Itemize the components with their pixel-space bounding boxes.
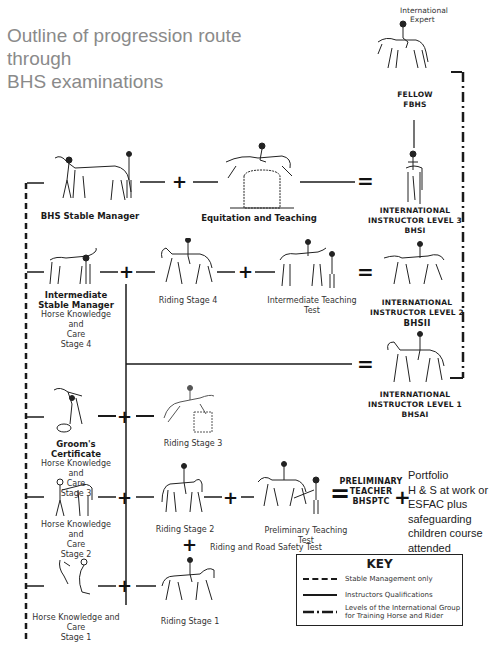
equals-operator: = [357, 263, 374, 281]
plus-operator: + [117, 408, 132, 426]
plus-operator: + [119, 263, 134, 281]
dashdot-line-sample-icon [303, 610, 337, 614]
key-label-line: Levels of the International Group [345, 604, 460, 612]
bhs-stable-manager-label: BHS Stable Manager [38, 211, 142, 221]
plus-operator: + [117, 577, 132, 595]
label-line: INSTRUCTOR LEVEL 2 [364, 308, 470, 318]
plus-operator: + [238, 263, 253, 281]
label-line: INSTRUCTOR LEVEL 3 [362, 216, 468, 226]
instructor-level2-label: INTERNATIONAL INSTRUCTOR LEVEL 2 BHSII [364, 298, 470, 328]
label-line: Horse Knowledge and [36, 310, 116, 330]
riding-stage3-label: Riding Stage 3 [155, 439, 231, 449]
international-expert-label: International Expert [400, 6, 472, 24]
portfolio-line: children course [408, 526, 497, 541]
instructor-level3-label: INTERNATIONAL INSTRUCTOR LEVEL 3 BHSI [362, 206, 468, 236]
legend-key: KEY Stable Management only Instructors Q… [296, 554, 463, 626]
key-label-line: for Training Horse and Rider [345, 612, 460, 620]
riding-stage3-jump-icon [160, 384, 220, 434]
fellow-label: FELLOW FBHS [380, 90, 450, 110]
label-line: INTERNATIONAL [362, 206, 468, 216]
hkc-stage2-icon [48, 476, 98, 520]
hkc-stage2-label: Horse Knowledge and Care Stage 2 [36, 520, 116, 560]
label-line: BHSI [362, 226, 468, 236]
label-line: Groom's Certificate [36, 439, 116, 459]
label-line: Expert [400, 15, 472, 24]
portfolio-requirements: Portfolio H & S at work or ESFAC plus sa… [408, 468, 497, 555]
riding-stage1-label: Riding Stage 1 [152, 617, 228, 627]
label-line: Horse Knowledge and Care [22, 613, 130, 633]
key-item-solid: Instructors Qualifications [297, 587, 462, 603]
label-line: INSTRUCTOR LEVEL 1 [362, 400, 468, 410]
label-line: BHSAI [362, 410, 468, 420]
key-item-dashed: Stable Management only [297, 571, 462, 587]
instructor-level1-label: INTERNATIONAL INSTRUCTOR LEVEL 1 BHSAI [362, 390, 468, 420]
intermediate-stable-manager-label: Intermediate Stable Manager Horse Knowle… [36, 290, 116, 350]
label-line: Intermediate [36, 290, 116, 300]
key-label: Levels of the International Group for Tr… [345, 604, 460, 620]
riding-stage4-horse-icon [156, 238, 216, 290]
label-line: INTERNATIONAL [364, 298, 470, 308]
portfolio-line: attended [408, 541, 497, 556]
plus-operator: + [172, 173, 187, 191]
hkc-stage1-label: Horse Knowledge and Care Stage 1 [22, 613, 130, 643]
label-line: Stage 1 [22, 633, 130, 643]
label-line: FBHS [380, 100, 450, 110]
equals-operator: = [357, 355, 374, 373]
riding-road-safety-label: Riding and Road Safety Test [210, 543, 330, 553]
key-title: KEY [297, 557, 462, 571]
label-line: INTERNATIONAL [362, 390, 468, 400]
label-line: Stage 4 [36, 340, 116, 350]
plus-operator: + [117, 489, 132, 507]
portfolio-line: H & S at work or [408, 483, 497, 498]
riding-stage4-label: Riding Stage 4 [150, 296, 226, 306]
intermediate-stable-horse-icon [46, 244, 101, 289]
label-line: Horse Knowledge and [36, 520, 116, 540]
portfolio-line: ESFAC plus [408, 497, 497, 512]
preliminary-teaching-horse-icon [254, 460, 324, 516]
label-line: Care [36, 330, 116, 340]
bhsii-horse-icon [380, 240, 450, 288]
portfolio-line: safeguarding [408, 512, 497, 527]
label-line: FELLOW [380, 90, 450, 100]
portfolio-line: Portfolio [408, 468, 497, 483]
key-item-dashdot: Levels of the International Group for Tr… [297, 603, 462, 621]
groom-horse-icon [48, 384, 98, 436]
hkc-stage1-icon [54, 556, 98, 600]
plus-operator: + [182, 536, 197, 554]
equals-operator: = [357, 172, 374, 190]
equitation-teaching-label: Equitation and Teaching [200, 213, 318, 223]
bhsi-horse-icon [400, 150, 430, 206]
international-expert-horse-icon [372, 18, 432, 73]
dashed-line-sample-icon [303, 578, 337, 580]
key-label: Instructors Qualifications [345, 591, 433, 599]
bhsai-horse-icon [382, 330, 450, 386]
intermediate-teaching-test-label: Intermediate Teaching Test [262, 296, 362, 316]
riding-stage1-horse-icon [158, 556, 218, 606]
solid-line-sample-icon [303, 594, 337, 596]
intermediate-teaching-horse-icon [276, 238, 338, 290]
label-line: Stable Manager [36, 300, 116, 310]
riding-stage2-horse-icon [158, 462, 206, 518]
label-line: Care [36, 540, 116, 550]
plus-operator: + [223, 489, 238, 507]
stable-manager-horse-icon [45, 150, 140, 205]
label-line: BHSII [364, 318, 470, 328]
equitation-jump-icon [222, 140, 300, 212]
label-line: International [400, 6, 472, 15]
key-label: Stable Management only [345, 575, 433, 583]
